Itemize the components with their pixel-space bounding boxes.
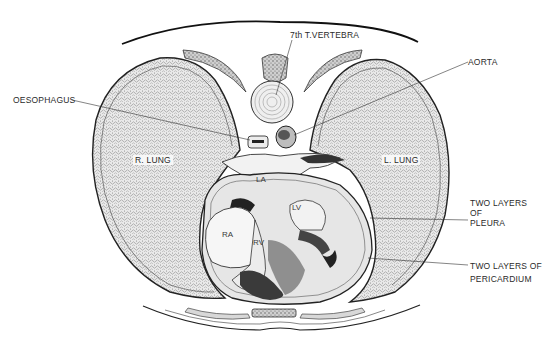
costal-cartilage-left bbox=[300, 308, 365, 319]
left-lung-label: L. LUNG bbox=[382, 155, 420, 165]
right-lung-label: R. LUNG bbox=[133, 155, 173, 165]
costal-cartilage-right bbox=[185, 308, 250, 319]
pericardium-label: TWO LAYERS OF PERICARDIUM bbox=[470, 260, 542, 286]
pericardium-label-line1: TWO LAYERS OF bbox=[470, 260, 542, 273]
right-atrium-label: RA bbox=[222, 230, 233, 239]
thorax-cross-section-diagram bbox=[0, 0, 550, 339]
pericardium-label-line2: PERICARDIUM bbox=[470, 273, 542, 286]
left-ventricle-label: LV bbox=[292, 203, 301, 212]
vertebral-body bbox=[251, 81, 293, 123]
sternum bbox=[252, 309, 296, 317]
aorta-label: AORTA bbox=[468, 57, 498, 67]
left-atrium-label: LA bbox=[256, 175, 266, 184]
pleura-label-line3: PLEURA bbox=[470, 218, 527, 228]
pleura-label-line1: TWO LAYERS bbox=[470, 198, 527, 208]
back-outline bbox=[122, 21, 418, 44]
oesophagus-label: OESOPHAGUS bbox=[13, 95, 75, 105]
vertebra-label: 7th T.VERTEBRA bbox=[290, 30, 359, 40]
pleura-label-line2: OF bbox=[470, 208, 527, 218]
right-ventricle-label: RV bbox=[253, 238, 264, 247]
pleura-label: TWO LAYERS OF PLEURA bbox=[470, 198, 527, 228]
